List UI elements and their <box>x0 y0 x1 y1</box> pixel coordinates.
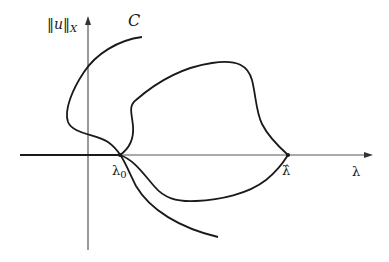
y-axis-label: ‖u‖X <box>47 17 77 34</box>
y-axis-arrow-icon <box>85 16 91 25</box>
lambda0-point <box>118 153 122 157</box>
upper-loop-branch <box>120 62 288 155</box>
bifurcation-diagram <box>0 0 389 262</box>
lower-loop-branch <box>120 155 288 201</box>
lambda-hat-point <box>286 153 290 157</box>
lambda-hat-label: λ̂ <box>282 164 290 177</box>
lambda0-label: λ0 <box>112 164 127 180</box>
x-axis-label: λ <box>352 165 360 178</box>
x-axis-arrow-icon <box>364 152 373 158</box>
curve-c-label: C <box>128 13 140 29</box>
